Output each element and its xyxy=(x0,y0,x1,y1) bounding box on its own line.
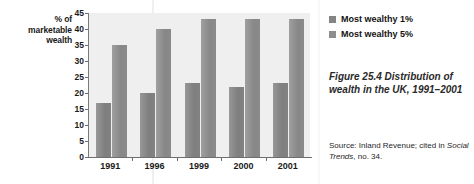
bar-1996-series-1 xyxy=(140,93,155,157)
bar-1996-series-2 xyxy=(156,29,171,157)
x-axis-tick-mark xyxy=(221,157,222,161)
figure-caption: Figure 25.4 Distribution of wealth in th… xyxy=(329,70,471,96)
legend-label: Most wealthy 1% xyxy=(341,14,413,24)
legend-item-1: Most wealthy 1% xyxy=(329,14,413,24)
y-axis-tick-label: 20 xyxy=(62,88,84,98)
y-axis-tick-labels: 454035302520151050 xyxy=(62,0,84,184)
bar-1991-series-2 xyxy=(112,45,127,157)
x-axis-tick-mark xyxy=(266,157,267,161)
bar-1999-series-2 xyxy=(201,19,216,157)
figure-source: Source: Inland Revenue; cited in Social … xyxy=(329,140,474,162)
y-axis-tick-mark xyxy=(85,109,88,110)
x-axis-line xyxy=(86,157,312,158)
x-axis-tick-mark xyxy=(177,157,178,161)
y-axis-tick-label: 30 xyxy=(62,56,84,66)
x-axis-tick-label: 1996 xyxy=(132,161,178,171)
legend-swatch-icon xyxy=(329,16,336,23)
y-axis-tick-mark xyxy=(85,13,88,14)
y-axis-tick-label: 45 xyxy=(62,8,84,18)
y-axis-tick-mark xyxy=(85,77,88,78)
y-axis-tick-mark xyxy=(85,125,88,126)
y-axis-tick-mark xyxy=(85,29,88,30)
y-axis-tick-label: 40 xyxy=(62,24,84,34)
plot-area xyxy=(88,13,310,157)
source-suffix: , no. 34. xyxy=(353,152,382,161)
y-axis-tick-label: 15 xyxy=(62,104,84,114)
legend-item-2: Most wealthy 5% xyxy=(329,29,413,39)
figure-container: % of marketable wealth 45403530252015105… xyxy=(0,0,474,184)
scan-fold-artifact-secondary xyxy=(318,0,320,184)
y-axis-tick-mark xyxy=(85,141,88,142)
y-axis-tick-label: 5 xyxy=(62,136,84,146)
x-axis-tick-label: 2001 xyxy=(265,161,311,171)
y-axis-tick-label: 0 xyxy=(62,152,84,162)
y-axis-tick-mark xyxy=(85,157,88,158)
y-axis-tick-mark xyxy=(85,61,88,62)
x-axis-tick-label: 1991 xyxy=(87,161,133,171)
y-axis-tick-label: 35 xyxy=(62,40,84,50)
x-axis-tick-label: 1999 xyxy=(176,161,222,171)
bar-2001-series-2 xyxy=(289,19,304,157)
legend-label: Most wealthy 5% xyxy=(341,29,413,39)
bar-2001-series-1 xyxy=(273,83,288,157)
legend-swatch-icon xyxy=(329,31,336,38)
x-axis-tick-mark xyxy=(132,157,133,161)
y-axis-tick-mark xyxy=(85,93,88,94)
chart-legend: Most wealthy 1%Most wealthy 5% xyxy=(329,14,413,44)
y-axis-tick-label: 10 xyxy=(62,120,84,130)
y-axis-tick-label: 25 xyxy=(62,72,84,82)
bar-1999-series-1 xyxy=(185,83,200,157)
source-prefix: Source: Inland Revenue; cited in xyxy=(329,141,447,150)
bar-2000-series-1 xyxy=(229,87,244,157)
x-axis-tick-label: 2000 xyxy=(220,161,266,171)
bar-1991-series-1 xyxy=(96,103,111,157)
y-axis-tick-mark xyxy=(85,45,88,46)
bar-2000-series-2 xyxy=(245,19,260,157)
